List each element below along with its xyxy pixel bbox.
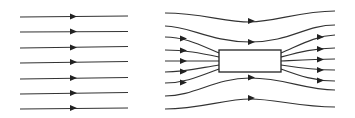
arrow-icon xyxy=(180,58,187,64)
diverging-line xyxy=(281,69,335,81)
arrow-icon xyxy=(317,67,324,73)
uniform-line xyxy=(20,75,128,81)
diverging-line xyxy=(281,65,335,70)
diagram-canvas xyxy=(0,0,355,118)
converging-line xyxy=(165,65,219,72)
field-lines-diagram xyxy=(0,0,355,118)
arrow-icon xyxy=(248,18,255,24)
arrow-icon xyxy=(248,39,255,45)
diverging-line xyxy=(281,59,335,61)
uniform-line xyxy=(20,90,128,96)
arrow-icon xyxy=(317,34,324,40)
arrow-icon xyxy=(180,48,187,54)
arrow-icon xyxy=(248,95,255,101)
uniform-line xyxy=(20,105,128,111)
outer-line-bottom xyxy=(165,99,335,109)
converging-line xyxy=(165,69,219,83)
converging-line xyxy=(165,50,219,57)
arrow-icon xyxy=(317,57,324,63)
uniform-field-panel xyxy=(20,14,128,112)
arrow-icon xyxy=(180,69,187,75)
outer-line-2 xyxy=(165,25,335,42)
uniform-line xyxy=(20,45,128,51)
rectangle-object xyxy=(219,50,281,72)
uniform-line xyxy=(20,14,128,20)
uniform-line xyxy=(20,29,128,35)
outer-line-3 xyxy=(165,78,335,96)
arrow-icon xyxy=(317,78,324,84)
arrow-icon xyxy=(248,75,255,81)
disturbed-field-panel xyxy=(165,11,335,109)
arrow-icon xyxy=(317,46,324,52)
uniform-line xyxy=(20,59,128,65)
